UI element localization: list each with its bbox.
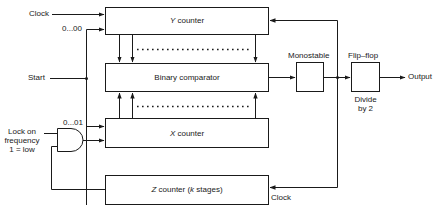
- lock-label-3: 1 = low: [2, 146, 42, 154]
- start-label: Start: [28, 74, 45, 82]
- clock-z-label: Clock: [271, 194, 291, 202]
- preset-x-label: 0...01: [63, 119, 83, 127]
- y-counter-label: Y counter: [105, 17, 269, 25]
- monostable-block: [297, 63, 324, 92]
- lock-label-2: frequency: [2, 137, 42, 145]
- divide-by-2-label: Divide: [351, 96, 380, 104]
- and-gate: [58, 129, 84, 152]
- divide-by-2-label-2: by 2: [351, 105, 380, 113]
- lock-label-1: Lock on: [2, 128, 42, 136]
- x-counter-label: X counter: [105, 130, 269, 138]
- output-label: Output: [408, 73, 432, 81]
- z-counter-label: Z counter (k stages): [105, 186, 269, 194]
- binary-comparator-label: Binary comparator: [105, 74, 269, 82]
- clock-input-label: Clock: [29, 10, 49, 18]
- preset-y-label: 0...00: [62, 25, 82, 33]
- flipflop-block: [352, 63, 380, 92]
- monostable-label: Monostable: [288, 52, 329, 60]
- flipflop-label: Flip–flop: [348, 52, 378, 60]
